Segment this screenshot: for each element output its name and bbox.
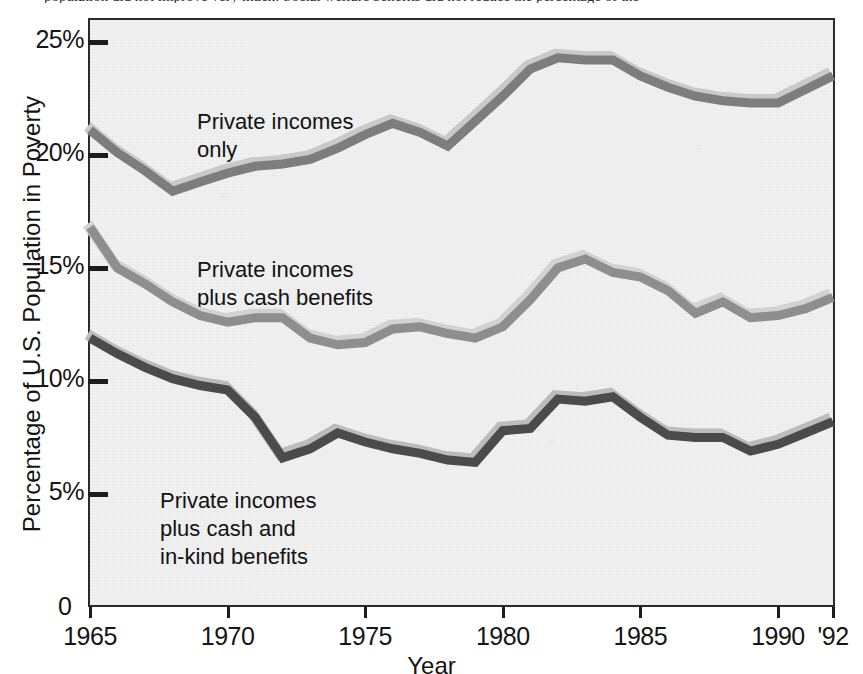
- cropped-caption: population did not improve very much: So…: [0, 0, 863, 3]
- y-axis-tick: [88, 153, 108, 158]
- y-axis-tick: [88, 40, 108, 45]
- x-axis-tick-label: 1990: [751, 622, 805, 651]
- x-axis-tick-label: 1970: [201, 622, 255, 651]
- series-label-plus-cash-and-in-kind-benefits: Private incomes plus cash and in-kind be…: [160, 487, 317, 571]
- x-axis-tick: [832, 607, 835, 618]
- x-axis-tick-label: 1965: [63, 622, 117, 651]
- x-axis-tick: [364, 607, 367, 618]
- x-axis-tick: [639, 607, 642, 618]
- y-axis-tick: [88, 492, 108, 497]
- x-axis-title: Year: [0, 652, 863, 674]
- chart-page: population did not improve very much: So…: [0, 0, 863, 674]
- x-axis-tick: [502, 607, 505, 618]
- x-axis-tick: [777, 607, 780, 618]
- x-axis-tick-label: 1985: [614, 622, 668, 651]
- series-label-plus-cash-benefits: Private incomes plus cash benefits: [197, 256, 373, 312]
- series-label-private-incomes-only: Private incomes only: [197, 108, 354, 164]
- y-axis-zero-label: 0: [58, 592, 72, 621]
- x-axis-tick-label: 1980: [476, 622, 530, 651]
- x-axis-tick: [89, 607, 92, 618]
- y-axis-tick-label: 25%: [8, 25, 84, 54]
- y-axis-tick: [88, 379, 108, 384]
- caption-text: population did not improve very much: So…: [0, 0, 863, 3]
- x-axis-tick-label: '92: [817, 622, 848, 651]
- y-axis-tick: [88, 266, 108, 271]
- x-axis-tick-label: 1975: [338, 622, 392, 651]
- x-axis-tick: [227, 607, 230, 618]
- y-axis-title: Percentage of U.S. Population in Poverty: [18, 54, 46, 574]
